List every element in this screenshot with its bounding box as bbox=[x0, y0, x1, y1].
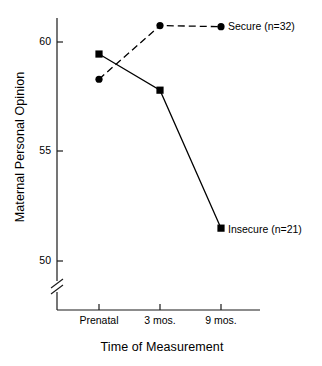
line-chart-plot bbox=[0, 0, 322, 366]
x-axis-title: Time of Measurement bbox=[57, 340, 267, 354]
y-axis-title: Maternal Personal Opinion bbox=[13, 32, 27, 262]
series-label-secure: Secure (n=32) bbox=[228, 20, 295, 32]
data-point-insecure-prenatal bbox=[95, 50, 102, 57]
data-point-secure-9mos bbox=[217, 23, 224, 30]
figure-container: 60 55 50 Prenatal 3 mos. 9 mos. Secure (… bbox=[0, 0, 322, 366]
series-label-insecure: Insecure (n=21) bbox=[228, 223, 302, 235]
series-line-secure bbox=[99, 26, 221, 80]
series-line-insecure bbox=[99, 54, 221, 228]
y-tick-label-50: 50 bbox=[29, 254, 51, 266]
data-point-insecure-3mos bbox=[156, 87, 163, 94]
x-tick-label-9mos: 9 mos. bbox=[186, 314, 256, 326]
data-point-secure-3mos bbox=[156, 22, 163, 29]
x-tick-label-prenatal: Prenatal bbox=[64, 314, 134, 326]
y-tick-label-55: 55 bbox=[29, 144, 51, 156]
data-point-insecure-9mos bbox=[217, 225, 224, 232]
x-tick-label-3mos: 3 mos. bbox=[125, 314, 195, 326]
data-point-secure-prenatal bbox=[95, 76, 102, 83]
y-tick-label-60: 60 bbox=[29, 35, 51, 47]
